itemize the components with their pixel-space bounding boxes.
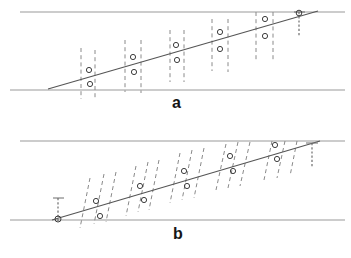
dashed-line: [170, 153, 180, 203]
sample-marker: [272, 142, 277, 147]
panel-b-label: b: [173, 226, 183, 242]
sample-marker: [87, 81, 92, 86]
dashed-line: [194, 148, 204, 198]
dashed-line: [149, 160, 159, 210]
dashed-line: [264, 141, 272, 180]
panel-a-diagonal-line: [48, 11, 318, 89]
sample-marker: [130, 54, 135, 59]
panel-b-end-annotation: [306, 143, 318, 167]
dashed-line: [106, 172, 116, 222]
sample-marker: [137, 183, 142, 188]
dashed-line: [126, 166, 136, 216]
sample-marker: [181, 168, 186, 173]
dashed-line: [182, 150, 192, 200]
sample-marker: [93, 198, 98, 203]
sample-marker: [173, 42, 178, 47]
sample-marker: [141, 197, 146, 202]
sample-marker: [217, 46, 222, 51]
sample-marker: [262, 33, 267, 38]
panel-a-label: a: [172, 95, 181, 111]
dashed-line: [228, 142, 238, 188]
figure-root: a b: [0, 0, 351, 258]
sample-marker: [227, 153, 232, 158]
sample-marker: [174, 57, 179, 62]
sample-marker: [97, 213, 102, 218]
sample-marker: [230, 168, 235, 173]
panel-b-diagonal-line: [52, 141, 320, 220]
dashed-line: [277, 141, 285, 178]
dashed-line: [138, 162, 148, 212]
sample-marker: [131, 69, 136, 74]
panel-a-markers: [86, 10, 301, 86]
panel-b: [10, 141, 345, 228]
sample-marker: [86, 67, 91, 72]
panel-a: [10, 10, 345, 100]
dashed-line: [216, 144, 226, 190]
sample-marker: [274, 156, 279, 161]
sample-marker: [262, 16, 267, 21]
sample-marker: [217, 29, 222, 34]
panel-b-markers: [55, 142, 280, 222]
dashed-line: [290, 141, 297, 176]
diagram-canvas: [0, 0, 351, 258]
panel-a-dashed-lines: [81, 12, 273, 100]
